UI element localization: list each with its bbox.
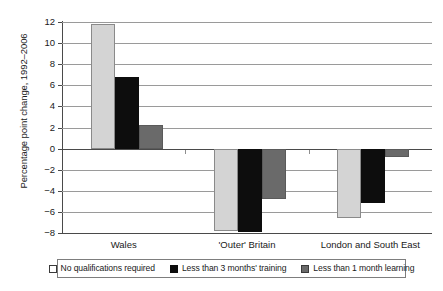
y-tick-mark: [58, 170, 62, 171]
legend-label: No qualifications required: [61, 264, 155, 273]
bar: [115, 77, 139, 149]
legend-item-0[interactable]: No qualifications required: [49, 264, 155, 273]
gridline: [62, 22, 432, 23]
y-tick-label: 4: [29, 101, 55, 110]
y-tick-label: 8: [29, 59, 55, 68]
y-tick-label: 2: [29, 123, 55, 132]
y-tick-mark: [58, 212, 62, 213]
bar-chart-figure: Percentage point change, 1992–2006 12108…: [0, 0, 443, 291]
zero-line-tick: [185, 150, 186, 154]
y-tick-mark: [58, 106, 62, 107]
plot-area: [62, 22, 432, 233]
category-label-0: Wales: [62, 239, 185, 250]
bar: [262, 149, 286, 200]
legend-item-1[interactable]: Less than 3 months' training: [170, 264, 286, 273]
y-tick-mark: [58, 233, 62, 234]
category-label-2: London and South East: [309, 239, 432, 250]
legend-label: Less than 3 months' training: [182, 264, 286, 273]
y-tick-label: −4: [29, 186, 55, 195]
y-tick-label: −6: [29, 207, 55, 216]
bar: [139, 125, 163, 148]
y-tick-mark: [58, 85, 62, 86]
legend-item-2[interactable]: Less than 1 month learning: [301, 264, 414, 273]
y-tick-mark: [58, 64, 62, 65]
y-tick-mark: [58, 191, 62, 192]
y-tick-mark: [58, 22, 62, 23]
bar: [91, 24, 115, 148]
black-swatch: [170, 265, 178, 273]
gridline: [62, 233, 432, 234]
gridline: [62, 64, 432, 65]
y-tick-mark: [58, 128, 62, 129]
y-tick-mark: [58, 149, 62, 150]
y-tick-label: 10: [29, 38, 55, 47]
bar: [385, 149, 409, 157]
bar: [238, 149, 262, 232]
y-tick-label: 6: [29, 80, 55, 89]
category-label-1: 'Outer' Britain: [185, 239, 308, 250]
y-tick-label: −8: [29, 228, 55, 237]
chart-legend: No qualifications requiredLess than 3 mo…: [57, 259, 406, 278]
gridline: [62, 43, 432, 44]
bar: [337, 149, 361, 219]
dark-gray-swatch: [301, 265, 309, 273]
bar: [361, 149, 385, 204]
y-tick-mark: [58, 43, 62, 44]
zero-line-tick: [309, 150, 310, 154]
bar: [214, 149, 238, 231]
legend-label: Less than 1 month learning: [313, 264, 414, 273]
y-tick-label: 12: [29, 17, 55, 26]
y-tick-label: 0: [29, 144, 55, 153]
light-gray-swatch: [49, 265, 57, 273]
y-tick-label: −2: [29, 165, 55, 174]
